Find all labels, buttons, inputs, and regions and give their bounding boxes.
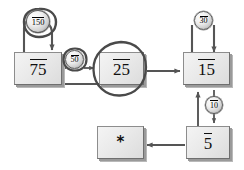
node-15-label: 15 [198, 59, 215, 78]
edge-label-50[interactable]: 50 [65, 50, 84, 69]
node-5-label: 5 [204, 133, 213, 152]
node-75[interactable]: 75 [14, 52, 62, 85]
edge-label-50-text: 50 [71, 55, 79, 65]
edge-label-150-text: 150 [32, 17, 45, 27]
node-star-label: * [117, 135, 125, 150]
edge-label-150[interactable]: 150 [26, 10, 50, 33]
edge-label-30[interactable]: 30 [194, 11, 213, 30]
node-75-label: 75 [30, 59, 47, 78]
node-25[interactable]: 25 [99, 52, 144, 85]
node-5[interactable]: 5 [186, 126, 230, 159]
edge-label-30-text: 30 [200, 16, 208, 26]
node-star[interactable]: * [97, 126, 144, 159]
node-25-label: 25 [113, 59, 130, 78]
edge-label-10[interactable]: 10 [205, 96, 223, 114]
edge-label-10-text: 10 [210, 100, 218, 110]
node-15[interactable]: 15 [183, 52, 230, 85]
diagram-canvas: 75 25 15 5 * 150 50 30 10 [0, 0, 244, 170]
